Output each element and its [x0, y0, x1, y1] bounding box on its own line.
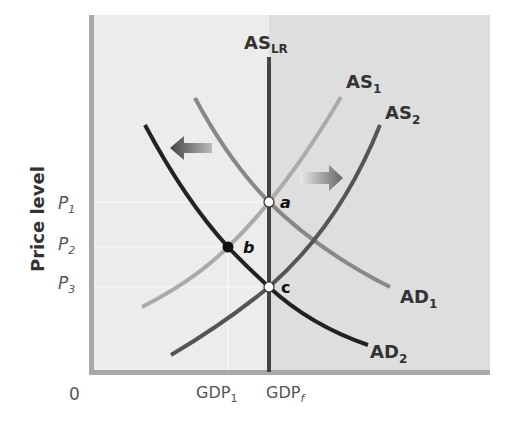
y-tick-labels: P1 P2 P3: [58, 193, 75, 296]
plot-bg-left: [92, 15, 269, 372]
tick-origin: 0: [69, 384, 80, 404]
plot-area: [92, 15, 490, 372]
point-a-marker: [264, 197, 274, 207]
tick-p3: P3: [58, 273, 75, 296]
tick-p2: P2: [58, 234, 75, 257]
point-c-label: c: [281, 278, 290, 297]
y-axis: [89, 15, 94, 375]
tick-p1: P1: [58, 193, 75, 216]
y-axis-label: Price level: [27, 166, 48, 272]
tick-gdp1: GDP1: [196, 383, 237, 405]
point-b-label: b: [243, 238, 254, 257]
point-b-marker: [223, 242, 234, 253]
point-a-label: a: [280, 193, 291, 212]
tick-gdpf: GDPf: [266, 383, 306, 405]
aggregate-supply-demand-chart: a b c ASLR AS1 AS2 AD1 AD2 P1 P2 P3 0 GD…: [0, 0, 521, 423]
x-axis: [89, 370, 490, 375]
plot-bg-right: [269, 15, 490, 372]
x-tick-labels: 0 GDP1 GDPf: [69, 383, 306, 405]
point-c-marker: [264, 282, 274, 292]
